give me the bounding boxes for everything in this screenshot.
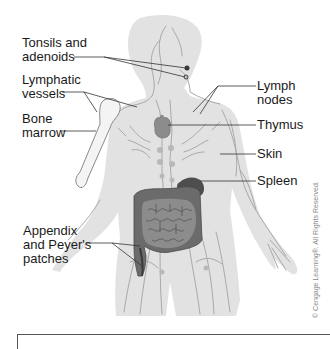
label-thymus: Thymus [257,118,303,132]
caption-box [17,334,330,349]
label-bone-marrow: Bone marrow [22,112,65,140]
label-tonsils-and-adenoids: Tonsils and adenoids [22,36,87,64]
label-skin: Skin [257,147,282,161]
label-spleen: Spleen [257,174,297,188]
label-appendix-and-peyers-patches: Appendix and Peyer's patches [23,224,91,266]
label-lymph-nodes: Lymph nodes [257,79,296,107]
thymus-organ [154,115,170,138]
label-lymphatic-vessels: Lymphatic vessels [22,73,81,101]
copyright-credit: © Cengage Learning®. All Rights Reserved… [312,181,319,318]
